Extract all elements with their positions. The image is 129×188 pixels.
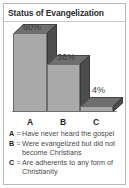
bar-c-category-label: C xyxy=(88,117,104,127)
legend-equals-c: = xyxy=(15,158,22,168)
bar-b-category-label: B xyxy=(55,117,71,127)
evangelization-status-figure: Status of Evangelization 60% A 36% B 4% … xyxy=(0,0,129,188)
bar-c-value-label: 4% xyxy=(92,85,105,95)
bar-b-value-label: 36% xyxy=(57,52,75,62)
legend-item-a: A = Have never heard the gospel xyxy=(9,129,123,139)
chart-title: Status of Evangelization xyxy=(8,8,104,18)
bar-b xyxy=(47,64,80,112)
bar-a-category-label: A xyxy=(22,117,38,127)
chart-legend: A = Have never heard the gospel B = Were… xyxy=(9,129,123,177)
legend-item-c: C = Are adherents to any form of Christi… xyxy=(9,158,123,177)
legend-item-b: B = Were evangelized but did not become … xyxy=(9,139,123,158)
bar-a-value-label: 60% xyxy=(23,22,41,32)
bar-c xyxy=(80,106,113,112)
bar-a-front-face xyxy=(13,33,47,112)
bar-a xyxy=(13,33,47,112)
bar-chart-plot: 60% A 36% B 4% C xyxy=(0,22,129,127)
legend-equals-a: = xyxy=(15,129,22,139)
legend-text-a: Have never heard the gospel xyxy=(22,129,123,139)
bar-c-front-face xyxy=(80,106,113,112)
legend-text-c: Are adherents to any form of Christianit… xyxy=(22,158,123,177)
legend-text-b: Were evangelized but did not become Chri… xyxy=(22,139,123,158)
legend-equals-b: = xyxy=(15,139,22,149)
bar-b-front-face xyxy=(47,64,80,112)
